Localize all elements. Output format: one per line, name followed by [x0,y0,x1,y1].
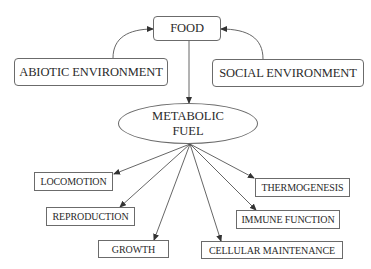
edge-fuel-to-growth [154,144,190,240]
social-environment-node: SOCIAL ENVIRONMENT [212,59,364,87]
metabolic-fuel-line2: FUEL [172,124,203,139]
abiotic-environment-node: ABIOTIC ENVIRONMENT [14,58,168,86]
edge-fuel-to-immune [190,144,256,210]
immune-function-node: IMMUNE FUNCTION [236,210,340,229]
growth-node: GROWTH [98,240,169,258]
diagram-canvas: FOOD ABIOTIC ENVIRONMENT SOCIAL ENVIRONM… [0,0,371,269]
locomotion-node: LOCOMOTION [34,172,113,191]
social-environment-label: SOCIAL ENVIRONMENT [219,66,357,81]
food-node: FOOD [153,16,221,41]
reproduction-label: REPRODUCTION [52,211,128,222]
cellular-maintenance-label: CELLULAR MAINTENANCE [209,245,335,256]
food-label: FOOD [170,21,204,36]
growth-label: GROWTH [112,244,155,255]
thermogenesis-label: THERMOGENESIS [261,182,343,193]
abiotic-environment-label: ABIOTIC ENVIRONMENT [19,65,163,80]
immune-function-label: IMMUNE FUNCTION [241,214,334,225]
metabolic-fuel-node: METABOLIC FUEL [118,103,258,144]
thermogenesis-node: THERMOGENESIS [255,178,350,197]
edge-social-to-food [221,29,263,59]
metabolic-fuel-line1: METABOLIC [152,109,224,124]
edge-abiotic-to-food [113,29,153,58]
locomotion-label: LOCOMOTION [40,176,106,187]
edge-fuel-to-locomotion [114,144,190,174]
edge-fuel-to-reproduction [120,144,190,207]
cellular-maintenance-node: CELLULAR MAINTENANCE [201,241,343,259]
reproduction-node: REPRODUCTION [46,207,135,226]
edge-fuel-to-cellular [190,144,221,241]
